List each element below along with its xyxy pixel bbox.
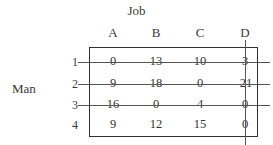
column-header-a: A [101, 25, 125, 41]
assignment-matrix-figure: Job Man A B C D 1 2 3 4 0 13 10 3 9 18 0… [0, 0, 273, 145]
row-header-2: 2 [60, 77, 78, 92]
job-axis-label: Job [0, 4, 273, 17]
cover-line-column-d [245, 40, 246, 145]
column-header-d: D [233, 25, 257, 41]
man-axis-label: Man [12, 82, 36, 95]
cover-line-row-3 [78, 105, 270, 106]
row-header-4: 4 [60, 118, 78, 133]
cell-4-c: 15 [185, 118, 215, 131]
cell-4-b: 12 [141, 118, 171, 131]
column-header-b: B [144, 25, 168, 41]
cover-line-row-2 [78, 84, 270, 85]
cover-line-row-1 [78, 62, 270, 63]
row-header-3: 3 [60, 98, 78, 113]
cell-4-a: 9 [98, 118, 128, 131]
row-header-1: 1 [60, 55, 78, 70]
column-header-c: C [188, 25, 212, 41]
